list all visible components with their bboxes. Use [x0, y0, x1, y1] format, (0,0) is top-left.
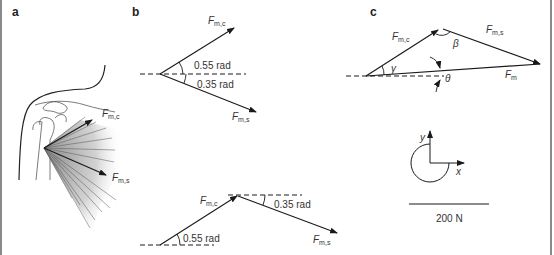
rotation-arrow	[430, 57, 440, 68]
figure-canvas: a	[0, 0, 554, 255]
panel-c-label: c	[370, 5, 377, 19]
angle-arc	[179, 62, 183, 74]
angle-arc	[177, 234, 180, 245]
panel-b-label: b	[132, 5, 139, 19]
scale-bar-label: 200 N	[436, 213, 463, 224]
angle-arc-beta	[436, 32, 450, 35]
label-fms: Fm,s	[112, 172, 130, 184]
panel-c: c Fm,c Fm,s Fm γ β θ y x 200 N	[346, 5, 540, 224]
label-fmc: Fm,c	[208, 15, 226, 27]
shoulder-illustration	[19, 65, 120, 230]
panel-a: a	[12, 5, 130, 230]
x-axis-label: x	[455, 166, 462, 177]
label-fms: Fm,s	[486, 24, 504, 36]
angle-theta: θ	[445, 73, 451, 84]
angle-label: 0.55 rad	[194, 60, 231, 71]
label-fms: Fm,s	[232, 111, 250, 123]
label-fmc: Fm,c	[102, 108, 120, 120]
angle-beta: β	[452, 38, 459, 49]
angle-arc-gamma	[382, 66, 384, 75]
label-fm: Fm	[505, 69, 517, 81]
label-fmc: Fm,c	[392, 31, 410, 43]
label-fms: Fm,s	[313, 234, 331, 246]
rotation-arrow	[436, 80, 440, 92]
angle-label: 0.55 rad	[183, 233, 220, 244]
angle-label: 0.35 rad	[197, 79, 234, 90]
angle-label: 0.35 rad	[274, 199, 311, 210]
angle-arc	[184, 74, 186, 83]
panel-a-label: a	[12, 5, 19, 19]
angle-gamma: γ	[391, 63, 397, 74]
angle-arc	[263, 195, 265, 205]
panel-b: b 0.55 rad 0.35 rad Fm,c Fm,s 0.55 rad 0…	[132, 5, 337, 246]
label-fmc: Fm,c	[200, 195, 218, 207]
y-axis-label: y	[419, 132, 426, 143]
